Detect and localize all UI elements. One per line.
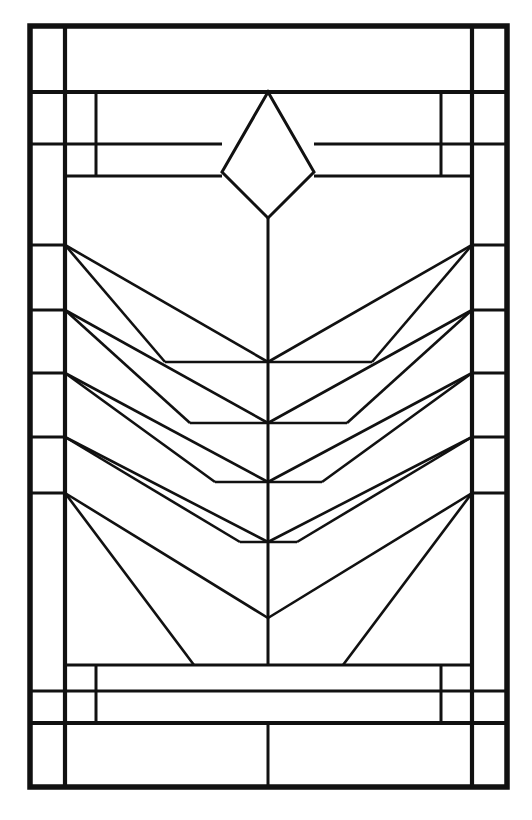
- stained-glass-diagram: [0, 0, 532, 820]
- pattern-canvas: [0, 0, 532, 820]
